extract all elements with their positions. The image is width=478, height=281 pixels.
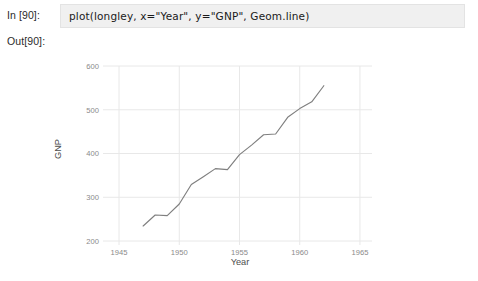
gridlines bbox=[107, 66, 372, 241]
code-input-box[interactable]: plot(longley, x="Year", y="GNP", Geom.li… bbox=[60, 4, 465, 28]
x-tick-label: 1960 bbox=[291, 248, 308, 257]
x-axis-title: Year bbox=[231, 257, 250, 267]
code-text[interactable]: plot(longley, x="Year", y="GNP", Geom.li… bbox=[69, 10, 309, 23]
input-cell-row: In [90]: plot(longley, x="Year", y="GNP"… bbox=[0, 4, 478, 28]
y-axis-title: GNP bbox=[53, 139, 63, 159]
y-tick-label: 300 bbox=[86, 193, 99, 202]
gnp-line-chart: 200300400500600 19451950195519601965 GNP… bbox=[0, 52, 478, 281]
input-prompt-label: In [90]: bbox=[7, 9, 61, 22]
output-prompt-label: Out[90]: bbox=[7, 35, 45, 48]
plot-output: 200300400500600 19451950195519601965 GNP… bbox=[0, 52, 478, 281]
notebook-cell: In [90]: plot(longley, x="Year", y="GNP"… bbox=[0, 0, 478, 281]
x-tick-label: 1965 bbox=[352, 248, 369, 257]
y-tick-label: 400 bbox=[86, 149, 99, 158]
tick-marks bbox=[103, 66, 360, 245]
y-tick-label: 500 bbox=[86, 106, 99, 115]
y-tick-label: 600 bbox=[86, 62, 99, 71]
x-tick-label: 1955 bbox=[231, 248, 248, 257]
x-tick-label: 1945 bbox=[111, 248, 128, 257]
y-tick-label: 200 bbox=[86, 237, 99, 246]
x-axis-tick-labels: 19451950195519601965 bbox=[111, 248, 369, 257]
gnp-data-line bbox=[143, 86, 324, 226]
x-tick-label: 1950 bbox=[171, 248, 188, 257]
y-axis-tick-labels: 200300400500600 bbox=[86, 62, 99, 246]
